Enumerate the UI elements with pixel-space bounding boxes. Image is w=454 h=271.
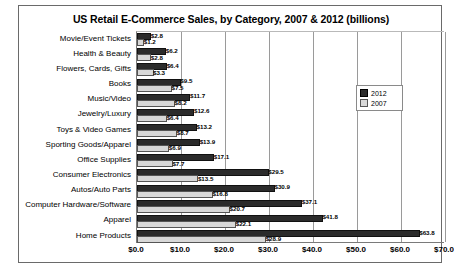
bar-value-label-2012: $41.8: [322, 214, 337, 220]
bar-value-label-2007: $20.7: [230, 206, 245, 212]
bar-2007: [137, 206, 230, 213]
category-axis-labels: Movie/Event TicketsHealth & BeautyFlower…: [19, 31, 134, 243]
category-label: Books: [109, 79, 131, 88]
plot-area: $2.8$1.2$6.2$2.8$6.4$3.3$9.5$7.5$11.7$8.…: [136, 31, 444, 243]
category-label: Flowers, Cards, Gifts: [56, 64, 131, 73]
legend-label-2012: 2012: [371, 90, 387, 97]
bar-value-label-2007: $7.7: [172, 161, 184, 167]
bar-2007: [137, 236, 266, 243]
bar-group: $2.8$1.2: [137, 33, 445, 47]
category-label: Movie/Event Tickets: [60, 34, 131, 43]
bar-value-label-2007: $6.4: [167, 115, 179, 121]
bar-value-label-2007: $13.5: [198, 176, 213, 182]
bar-value-label-2007: $3.3: [153, 70, 165, 76]
bar-2007: [137, 145, 169, 152]
bar-value-label-2012: $13.9: [200, 139, 215, 145]
bar-group: $63.8$28.9: [137, 230, 445, 244]
x-tick-label: $50.0: [346, 245, 366, 254]
bar-2007: [137, 100, 175, 107]
x-tick-label: $10.0: [170, 245, 190, 254]
bar-group: $17.1$7.7: [137, 154, 445, 168]
bar-value-label-2012: $17.1: [214, 154, 229, 160]
bar-value-label-2012: $63.8: [419, 230, 434, 236]
bar-group: $6.2$2.8: [137, 48, 445, 62]
category-label: Computer Hardware/Software: [25, 200, 131, 209]
x-tick-label: $20.0: [214, 245, 234, 254]
bar-2007: [137, 54, 151, 61]
bar-value-label-2012: $37.1: [302, 199, 317, 205]
bar-group: $37.1$20.7: [137, 200, 445, 214]
bar-value-label-2012: $30.9: [274, 184, 289, 190]
bar-value-label-2007: $6.9: [169, 145, 181, 151]
legend-item-2012: 2012: [360, 88, 399, 98]
bar-2007: [137, 221, 236, 228]
category-label: Music/Video: [88, 94, 131, 103]
bar-group: $12.6$6.4: [137, 109, 445, 123]
bar-value-label-2012: $12.6: [194, 108, 209, 114]
bar-value-label-2007: $16.8: [212, 191, 227, 197]
bar-value-label-2007: $2.8: [151, 55, 163, 61]
bar-value-label-2007: $8.2: [175, 100, 187, 106]
x-tick-label: $40.0: [302, 245, 322, 254]
bar-value-label-2007: $1.2: [144, 39, 156, 45]
bar-group: $13.9$6.9: [137, 139, 445, 153]
bar-2007: [137, 85, 172, 92]
category-label: Home Products: [76, 231, 131, 240]
bar-group: $29.5$13.5: [137, 169, 445, 183]
bar-2007: [137, 175, 198, 182]
bar-value-label-2007: $22.1: [236, 221, 251, 227]
category-label: Health & Beauty: [73, 49, 131, 58]
bar-2007: [137, 191, 213, 198]
x-tick-label: $30.0: [258, 245, 278, 254]
category-label: Sporting Goods/Apparel: [46, 140, 131, 149]
gridline: [445, 32, 446, 242]
bar-2007: [137, 160, 173, 167]
chart-container: US Retail E-Commerce Sales, by Category,…: [18, 5, 442, 263]
legend-swatch-2012-icon: [360, 89, 368, 97]
bar-value-label-2012: $29.5: [268, 169, 283, 175]
bar-value-label-2007: $8.7: [177, 130, 189, 136]
bar-value-label-2007: $28.9: [266, 236, 281, 242]
x-tick-label: $60.0: [390, 245, 410, 254]
chart-title: US Retail E-Commerce Sales, by Category,…: [19, 13, 443, 25]
bar-value-label-2012: $11.7: [190, 93, 205, 99]
bar-value-label-2012: $6.2: [166, 48, 178, 54]
category-label: Office Supplies: [77, 155, 131, 164]
bar-2007: [137, 130, 177, 137]
bar-group: $13.2$8.7: [137, 124, 445, 138]
bar-group: $30.9$16.8: [137, 185, 445, 199]
chart-legend: 2012 2007: [356, 85, 403, 111]
legend-item-2007: 2007: [360, 98, 399, 108]
legend-swatch-2007-icon: [360, 99, 368, 107]
x-axis-tick-labels: $0.0$10.0$20.0$30.0$40.0$50.0$60.0$70.0: [136, 245, 444, 259]
category-label: Autos/Auto Parts: [71, 185, 131, 194]
category-label: Consumer Electronics: [53, 170, 131, 179]
category-label: Toys & Video Games: [56, 125, 131, 134]
legend-label-2007: 2007: [371, 100, 387, 107]
bar-value-label-2007: $7.5: [172, 85, 184, 91]
bar-group: $6.4$3.3: [137, 63, 445, 77]
x-tick-label: $70.0: [434, 245, 454, 254]
bar-group: $41.8$22.1: [137, 215, 445, 229]
bar-2007: [137, 69, 154, 76]
bar-value-label-2012: $6.4: [167, 63, 179, 69]
bar-value-label-2012: $13.2: [197, 124, 212, 130]
category-label: Apparel: [103, 215, 131, 224]
x-tick-label: $0.0: [128, 245, 144, 254]
bar-2007: [137, 115, 167, 122]
category-label: Jewelry/Luxury: [78, 109, 131, 118]
